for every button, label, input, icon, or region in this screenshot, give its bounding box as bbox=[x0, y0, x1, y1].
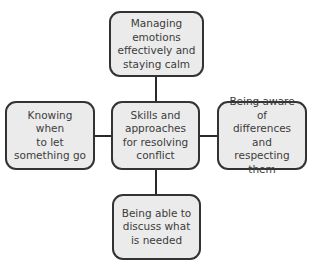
node-left: Knowing when to let something go bbox=[5, 101, 95, 170]
node-top-line: effectively and bbox=[118, 44, 196, 58]
node-right-line: Being aware of bbox=[224, 95, 300, 122]
connector-right bbox=[199, 135, 218, 137]
node-left-line: something go bbox=[12, 149, 88, 163]
node-bottom-line: Being able to bbox=[122, 207, 192, 221]
node-bottom-line: is needed bbox=[122, 234, 192, 248]
node-left-line: Knowing when bbox=[12, 109, 88, 136]
connector-bottom bbox=[155, 169, 157, 195]
node-bottom-line: discuss what bbox=[122, 220, 192, 234]
connector-left bbox=[94, 135, 112, 137]
node-center-line: for resolving bbox=[123, 136, 189, 150]
node-right-line: differences and bbox=[224, 122, 300, 149]
node-left-line: to let bbox=[12, 136, 88, 150]
node-top-line: staying calm bbox=[118, 58, 196, 72]
node-right-line: respecting them bbox=[224, 149, 300, 176]
connector-top bbox=[155, 76, 157, 102]
node-center-line: Skills and bbox=[123, 109, 189, 123]
node-center-line: approaches bbox=[123, 122, 189, 136]
node-top-line: Managing bbox=[118, 17, 196, 31]
node-bottom: Being able to discuss what is needed bbox=[112, 194, 201, 260]
node-center: Skills and approaches for resolving conf… bbox=[111, 101, 200, 170]
node-center-line: conflict bbox=[123, 149, 189, 163]
node-right: Being aware of differences and respectin… bbox=[217, 101, 307, 170]
node-top: Managing emotions effectively and stayin… bbox=[109, 11, 204, 77]
node-top-line: emotions bbox=[118, 31, 196, 45]
